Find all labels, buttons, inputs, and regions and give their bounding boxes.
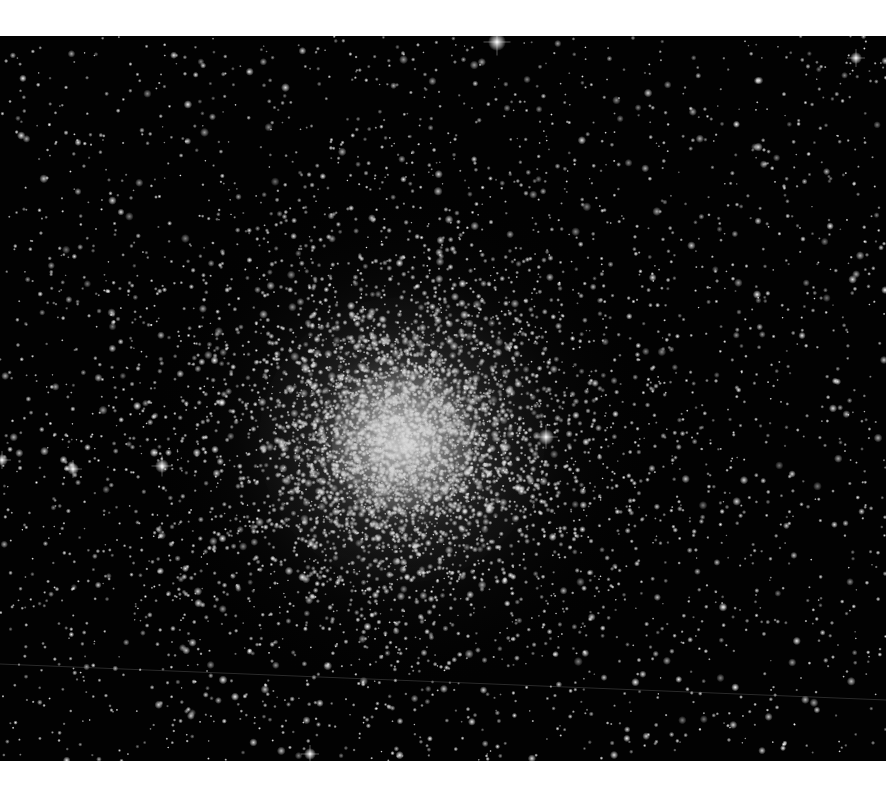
starfield-canvas (0, 36, 886, 761)
star-cluster-photo: Dense globular star cluster with bright … (0, 36, 886, 761)
